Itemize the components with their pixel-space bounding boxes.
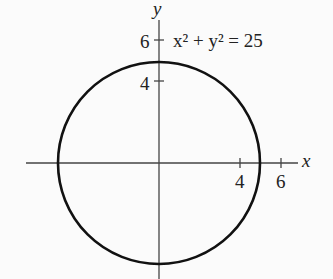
x-tick-label-4: 4 xyxy=(235,172,245,191)
plot-area xyxy=(0,0,333,279)
y-tick-label-4: 4 xyxy=(140,74,150,93)
chart-figure: y x 6 4 4 6 x² + y² = 25 xyxy=(0,0,333,279)
y-axis-label: y xyxy=(153,0,161,18)
x-tick-label-6: 6 xyxy=(276,172,286,191)
x-axis-label: x xyxy=(302,151,310,170)
equation-label: x² + y² = 25 xyxy=(173,31,263,50)
y-tick-label-6: 6 xyxy=(140,32,150,51)
